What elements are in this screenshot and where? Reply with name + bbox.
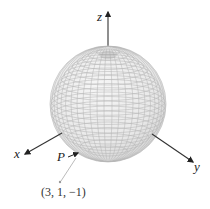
z-axis-label: z xyxy=(97,10,102,23)
y-axis-label: y xyxy=(194,160,200,173)
point-coordinates-label: (3, 1, −1) xyxy=(41,186,86,198)
coordinate-point-marker xyxy=(59,181,61,183)
x-axis-label: x xyxy=(14,147,20,160)
point-p-label: P xyxy=(57,150,65,163)
sphere-diagram: z x y P (3, 1, −1) xyxy=(0,0,210,209)
diagram-canvas xyxy=(0,0,210,209)
sphere xyxy=(50,46,166,162)
point-p-pointer xyxy=(68,153,78,157)
y-axis xyxy=(152,134,193,162)
